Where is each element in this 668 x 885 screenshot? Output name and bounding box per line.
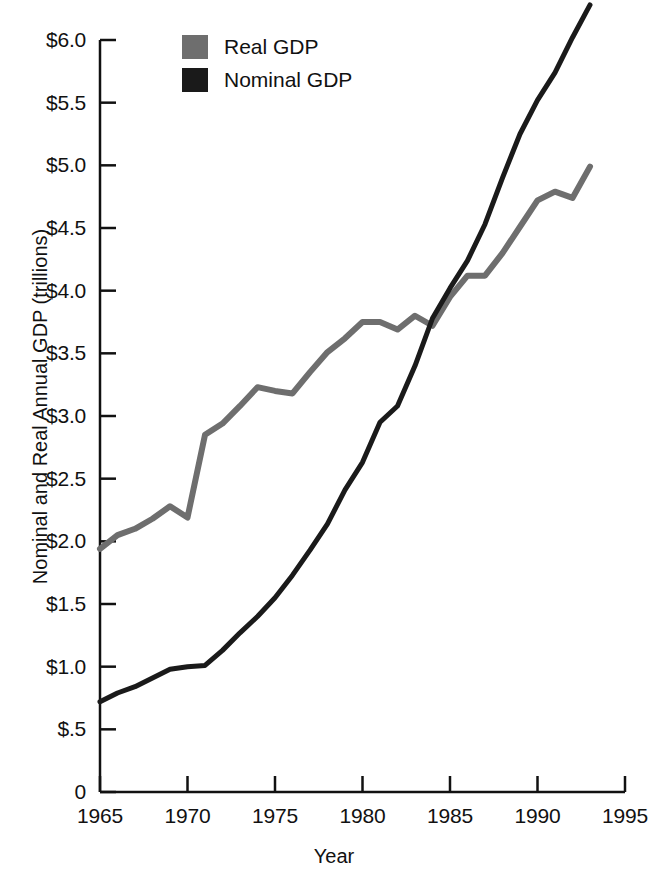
legend-item-nominal-gdp: Nominal GDP [182, 63, 352, 96]
x-axis-title: Year [0, 845, 668, 868]
legend-label-real-gdp: Real GDP [224, 35, 319, 59]
y-axis-tick-label: 0 [0, 780, 86, 804]
x-axis-tick-label: 1965 [77, 804, 123, 828]
legend-swatch-nominal-gdp [182, 68, 208, 92]
y-axis-ticks [100, 40, 116, 792]
x-axis-tick-label: 1995 [602, 804, 648, 828]
legend-item-real-gdp: Real GDP [182, 30, 352, 63]
y-axis-tick-label: $1.0 [0, 655, 86, 679]
y-axis-tick-label: $.5 [0, 717, 86, 741]
legend-label-nominal-gdp: Nominal GDP [224, 68, 352, 92]
axis-lines [100, 40, 625, 792]
y-axis-tick-label: $6.0 [0, 28, 86, 52]
x-axis-tick-label: 1980 [340, 804, 386, 828]
legend-swatch-real-gdp [182, 35, 208, 59]
y-axis-title: Nominal and Real Annual GDP (trillions) [29, 192, 52, 622]
gdp-line-chart: 0$.5$1.0$1.5$2.0$2.5$3.0$3.5$4.0$4.5$5.0… [0, 0, 668, 885]
x-axis-tick-label: 1975 [252, 804, 298, 828]
plot-area [0, 0, 668, 885]
x-axis-tick-label: 1985 [427, 804, 473, 828]
x-axis-ticks [100, 776, 625, 792]
data-series-lines [100, 5, 590, 702]
x-axis-tick-label: 1970 [165, 804, 211, 828]
y-axis-tick-label: $5.5 [0, 91, 86, 115]
x-axis-tick-label: 1990 [515, 804, 561, 828]
series-line-nominal-gdp [100, 5, 590, 702]
chart-legend: Real GDP Nominal GDP [182, 30, 352, 96]
y-axis-tick-label: $5.0 [0, 153, 86, 177]
